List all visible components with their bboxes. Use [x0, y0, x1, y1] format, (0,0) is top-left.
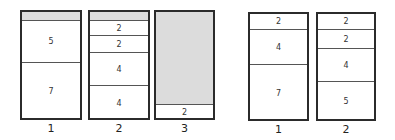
bin-left-2: 2244 [88, 10, 150, 120]
empty-space [90, 12, 148, 20]
item-block: 2 [318, 29, 374, 48]
bin-left-1: 57 [20, 10, 82, 120]
item-block: 4 [318, 48, 374, 81]
bin-label: 3 [175, 122, 195, 135]
bin-label: 1 [41, 122, 61, 135]
item-block: 7 [22, 62, 80, 120]
item-block: 4 [90, 85, 148, 120]
item-block: 5 [22, 20, 80, 62]
item-block: 2 [156, 104, 213, 120]
bin-left-3: 2 [154, 10, 215, 120]
bin-label: 2 [109, 122, 129, 135]
item-block: 4 [90, 52, 148, 85]
empty-space [156, 12, 213, 104]
item-block: 2 [250, 14, 307, 29]
bin-label: 2 [336, 123, 356, 136]
item-block: 4 [250, 29, 307, 64]
item-block: 2 [318, 14, 374, 29]
bin-right-1: 247 [248, 12, 309, 121]
item-block: 2 [90, 35, 148, 52]
bin-right-2: 2245 [316, 12, 376, 121]
item-block: 2 [90, 20, 148, 35]
empty-space [22, 12, 80, 20]
item-block: 7 [250, 64, 307, 121]
item-block: 5 [318, 81, 374, 121]
bin-label: 1 [269, 123, 289, 136]
